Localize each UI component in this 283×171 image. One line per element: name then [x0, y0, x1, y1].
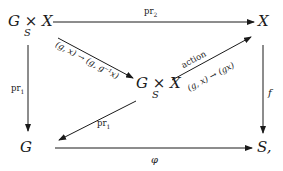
label-right-text: f — [268, 87, 272, 98]
node-bottom-right: S, — [257, 140, 272, 155]
label-right-f: f — [268, 88, 272, 98]
label-diag-pr1: pr1 — [97, 119, 110, 130]
node-bottom-right-main: S, — [257, 138, 272, 156]
node-top-left-subscript: S — [24, 28, 31, 38]
commutative-diagram: G × X S X G × X S G S, pr2 pr1 f φ (g, x… — [0, 0, 283, 171]
label-diag-pr1-sub: 1 — [107, 123, 111, 130]
node-top-right-main: X — [258, 12, 269, 30]
label-bottom-phi: φ — [151, 155, 158, 165]
label-diag-pr1-text: pr — [97, 118, 107, 128]
label-left-sub: 1 — [21, 88, 25, 95]
label-bottom-text: φ — [151, 154, 158, 165]
node-center-subscript: S — [152, 90, 159, 100]
node-bottom-left: G — [20, 140, 32, 155]
node-bottom-left-main: G — [20, 138, 32, 156]
node-center: G × X S — [136, 76, 181, 91]
label-top-pr2: pr2 — [144, 7, 157, 18]
node-top-right: X — [258, 14, 269, 29]
label-left-pr1: pr1 — [11, 84, 24, 95]
label-left-text: pr — [11, 83, 21, 93]
label-top-text: pr — [144, 6, 154, 16]
label-top-sub: 2 — [154, 11, 158, 18]
node-top-left: G × X S — [8, 14, 53, 29]
